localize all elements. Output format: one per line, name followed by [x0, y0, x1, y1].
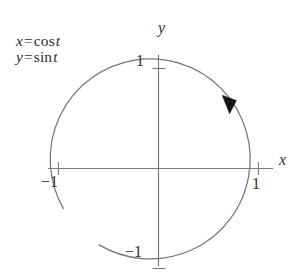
equation-x-function: cos — [34, 32, 55, 49]
tick-label-x-positive: 1 — [252, 176, 260, 192]
x-axis-label: x — [279, 152, 286, 168]
equation-y-parameter: t — [52, 48, 57, 65]
tick-label-y-negative: −1 — [125, 244, 142, 260]
equation-y-lhs: y — [16, 48, 23, 65]
equation-x-line: x=cost — [16, 33, 60, 49]
y-axis-label: y — [158, 20, 165, 36]
tick-label-x-negative: −1 — [41, 174, 58, 190]
equation-y-equals: = — [23, 48, 34, 65]
direction-arrow-icon — [222, 95, 236, 113]
equation-x-equals: = — [23, 32, 34, 49]
equation-x-lhs: x — [16, 32, 23, 49]
unit-circle-curve — [50, 59, 250, 259]
parametric-circle-figure: x=cost y=sint y x 1 −1 1 −1 — [0, 0, 305, 274]
parametric-equations-annotation: x=cost y=sint — [16, 33, 60, 65]
equation-x-parameter: t — [55, 32, 60, 49]
equation-y-function: sin — [34, 48, 52, 65]
equation-y-line: y=sint — [16, 49, 60, 65]
tick-label-y-positive: 1 — [136, 53, 144, 69]
